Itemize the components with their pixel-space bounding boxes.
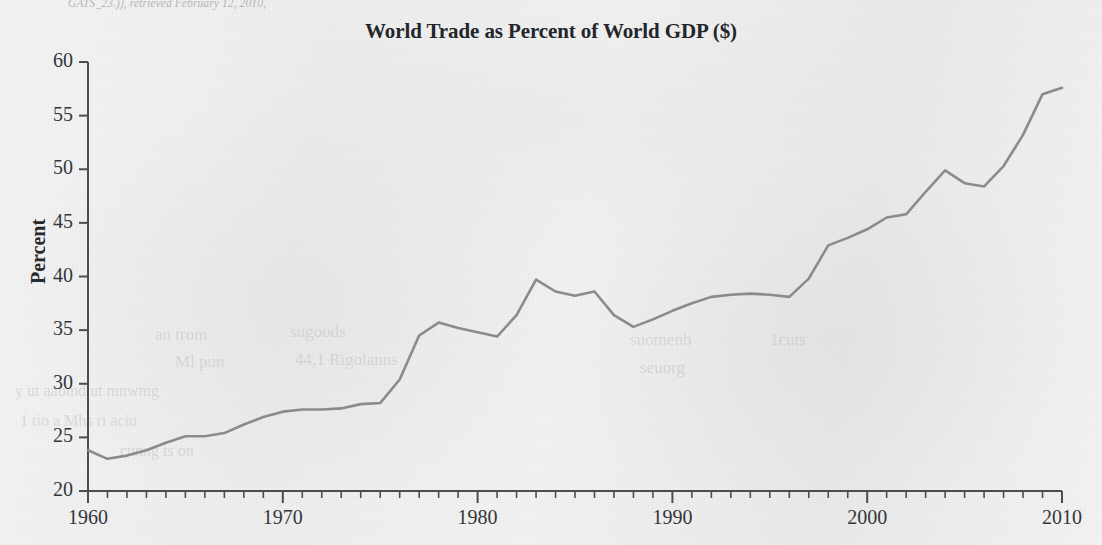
x-axis-tick-label: 2010 xyxy=(1022,506,1102,529)
x-axis-tick-label: 1990 xyxy=(632,506,712,529)
chart-page: an trom sugoods Ml pun 44,1 Rigolanns y … xyxy=(0,0,1102,545)
x-axis-tick-label: 1960 xyxy=(48,506,128,529)
y-axis-tick-label: 50 xyxy=(27,156,73,179)
y-axis-tick-label: 30 xyxy=(27,371,73,394)
x-axis-tick-label: 1980 xyxy=(438,506,518,529)
y-axis-tick-label: 55 xyxy=(27,103,73,126)
chart-plot-area xyxy=(0,0,1102,545)
y-axis-tick-label: 45 xyxy=(27,210,73,233)
y-axis-tick-label: 40 xyxy=(27,264,73,287)
y-axis-tick-label: 25 xyxy=(27,424,73,447)
y-axis-tick-label: 20 xyxy=(27,478,73,501)
y-axis-ticks xyxy=(79,62,88,491)
y-axis-tick-label: 60 xyxy=(27,49,73,72)
x-axis-minor-ticks xyxy=(107,491,1042,498)
axis-lines xyxy=(88,62,1062,491)
x-axis-tick-label: 2000 xyxy=(827,506,907,529)
data-series-line xyxy=(88,88,1062,459)
y-axis-tick-label: 35 xyxy=(27,317,73,340)
x-axis-tick-label: 1970 xyxy=(243,506,323,529)
